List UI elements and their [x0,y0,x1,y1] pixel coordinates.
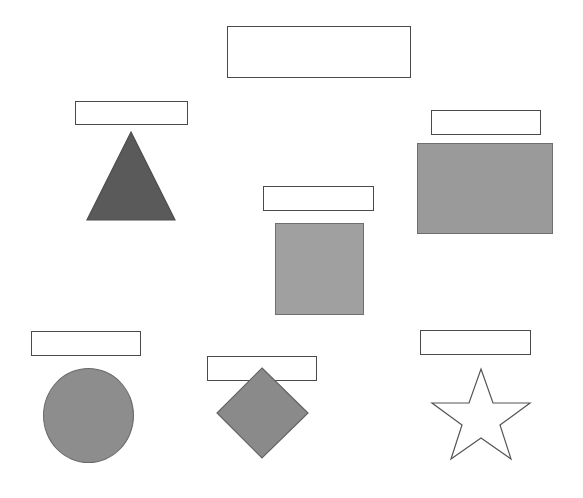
label-box-triangle[interactable] [75,101,188,125]
label-box-top-center[interactable] [227,26,411,78]
triangle-shape [86,130,177,222]
label-box-square[interactable] [263,186,374,211]
label-box-star[interactable] [420,330,531,355]
diamond-shape [216,367,309,460]
shapes-worksheet-canvas [0,0,583,498]
square-shape [275,223,364,315]
label-box-ellipse[interactable] [31,331,141,356]
label-box-big-rectangle[interactable] [431,110,541,135]
circle-shape [43,368,134,463]
rectangle-shape [417,143,553,234]
star-shape [426,368,536,460]
